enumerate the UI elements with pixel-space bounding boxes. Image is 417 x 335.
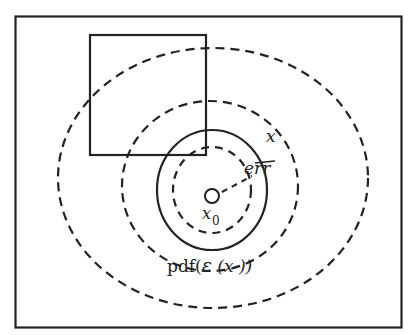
label-pdf-script-e: ε bbox=[202, 254, 212, 276]
label-pdf: pdf(ε (x )) bbox=[167, 254, 252, 276]
label-x0: x bbox=[202, 204, 211, 223]
err-vector bbox=[222, 176, 252, 192]
label-x: x bbox=[266, 126, 276, 146]
label-err: err bbox=[244, 158, 271, 178]
outer-frame bbox=[16, 17, 402, 328]
center-marker-x0 bbox=[205, 189, 219, 203]
label-pdf-prefix: pdf( bbox=[167, 256, 202, 276]
square-region bbox=[90, 35, 206, 155]
label-x0-subscript: 0 bbox=[212, 214, 220, 228]
label-pdf-suffix: (x )) bbox=[212, 256, 252, 276]
diagram-canvas: x err x 0 pdf(ε (x )) bbox=[0, 0, 417, 335]
